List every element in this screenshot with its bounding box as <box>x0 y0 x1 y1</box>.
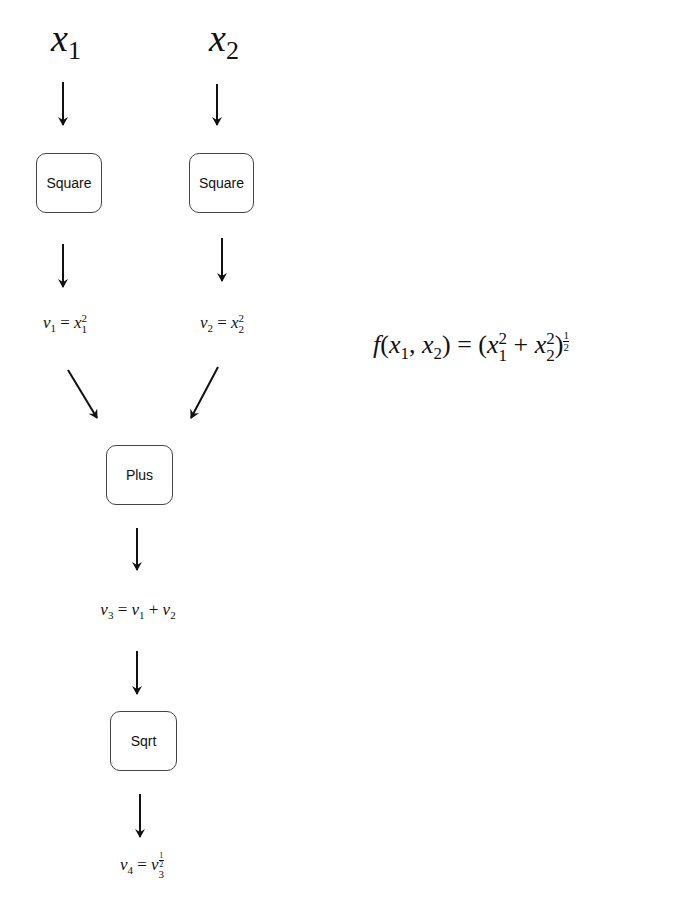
v1-sub: 1 <box>82 324 88 335</box>
x1-index: 1 <box>68 36 81 65</box>
v1-rhs: x <box>74 313 82 332</box>
fn-i2: 2 <box>434 344 443 363</box>
fn-sub2: 2 <box>546 347 555 364</box>
equation-v1: v1 = x21 <box>43 313 87 335</box>
v3-lhs: v <box>100 600 108 619</box>
fn-eq: = <box>457 330 472 359</box>
v1-eq: = <box>60 313 70 332</box>
node-label: Sqrt <box>131 733 157 749</box>
equation-v3: v3 = v1 + v2 <box>100 600 175 620</box>
v4-idx: 4 <box>127 864 133 876</box>
v3-idx: 3 <box>108 609 114 621</box>
fn-x1b: x <box>487 330 499 359</box>
v1-idx: 1 <box>50 322 56 334</box>
arrows-layer <box>0 0 695 907</box>
v3-eq: = <box>118 600 128 619</box>
v2-rhs: x <box>231 313 239 332</box>
v2-sub: 2 <box>239 324 245 335</box>
node-label: Square <box>199 175 244 191</box>
v3-a-idx: 1 <box>139 609 145 621</box>
fn-i1: 1 <box>400 344 409 363</box>
fn-sub1: 1 <box>499 347 508 364</box>
v4-rhs: v <box>151 855 159 874</box>
fn-close: ) <box>442 330 451 359</box>
fn-x2: x <box>422 330 434 359</box>
fn-den: 2 <box>563 342 569 353</box>
fn-x2b: x <box>535 330 547 359</box>
v3-b-idx: 2 <box>170 609 176 621</box>
equation-v4: v4 = v123 <box>120 852 164 880</box>
input-x1: x1 <box>51 16 81 66</box>
v2-eq: = <box>217 313 227 332</box>
x2-index: 2 <box>226 36 239 65</box>
fn-sq2: 2 <box>546 330 555 347</box>
equation-v2: v2 = x22 <box>200 313 244 335</box>
arrow-v1-plus <box>68 370 97 418</box>
node-label: Plus <box>126 467 153 483</box>
fn-sq1: 2 <box>499 330 508 347</box>
v3-a: v <box>131 600 139 619</box>
fn-plus: + <box>514 330 529 359</box>
node-label: Square <box>46 175 91 191</box>
fn-rp: ) <box>555 330 564 359</box>
v1-lhs: v <box>43 313 51 332</box>
node-sqrt[interactable]: Sqrt <box>110 711 177 771</box>
node-square-2[interactable]: Square <box>189 153 254 213</box>
fn-comma: , <box>409 330 416 359</box>
x1-symbol: x <box>51 17 68 59</box>
x2-symbol: x <box>209 17 226 59</box>
v3-b: v <box>163 600 171 619</box>
function-definition: f(x1, x2) = (x21 + x22)12 <box>373 330 569 364</box>
v2-idx: 2 <box>207 322 213 334</box>
v4-eq: = <box>137 855 147 874</box>
v2-lhs: v <box>200 313 208 332</box>
node-plus[interactable]: Plus <box>106 445 173 505</box>
fn-open: ( <box>380 330 389 359</box>
v3-op: + <box>149 600 159 619</box>
arrow-v2-plus <box>191 367 218 418</box>
node-square-1[interactable]: Square <box>36 153 102 213</box>
fn-x1: x <box>389 330 401 359</box>
v4-lhs: v <box>120 855 128 874</box>
fn-lp: ( <box>478 330 487 359</box>
input-x2: x2 <box>209 16 239 66</box>
v4-sub: 3 <box>159 869 165 880</box>
